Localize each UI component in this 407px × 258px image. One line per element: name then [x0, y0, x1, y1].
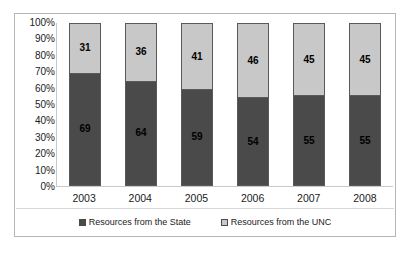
y-tick-label: 70%	[15, 67, 55, 77]
bar-value-label: 45	[303, 55, 314, 65]
bar-value-label: 45	[359, 55, 370, 65]
bar-segment-state[interactable]: 64	[126, 82, 156, 185]
y-tick-label: 50%	[15, 100, 55, 110]
x-tick-label: 2003	[56, 190, 112, 206]
bar-value-label: 55	[303, 136, 314, 146]
bar-value-label: 64	[135, 128, 146, 138]
y-tick-label: 30%	[15, 133, 55, 143]
bar-stack[interactable]: 4555	[293, 23, 325, 186]
bar-value-label: 41	[191, 52, 202, 62]
bar-segment-unc[interactable]: 36	[126, 24, 156, 82]
y-tick-label: 80%	[15, 51, 55, 61]
bar-segment-unc[interactable]: 31	[70, 24, 100, 74]
chart-legend: Resources from the StateResources from t…	[15, 212, 395, 232]
bar-stack[interactable]: 4159	[181, 23, 213, 186]
bar-group[interactable]: 4555	[337, 23, 393, 186]
bar-segment-unc[interactable]: 45	[294, 24, 324, 96]
bar-segment-unc[interactable]: 41	[182, 24, 212, 90]
y-tick-label: 40%	[15, 116, 55, 126]
bar-group[interactable]: 4555	[281, 23, 337, 186]
x-tick-label: 2004	[112, 190, 168, 206]
bar-segment-state[interactable]: 69	[70, 74, 100, 185]
unc-swatch-icon	[221, 219, 228, 226]
chart-frame: 100%90%80%70%60%50%40%30%20%10%0% 316936…	[14, 13, 396, 237]
legend-item[interactable]: Resources from the State	[79, 218, 191, 227]
y-tick-label: 60%	[15, 84, 55, 94]
bar-value-label: 69	[79, 124, 90, 134]
bar-segment-state[interactable]: 59	[182, 90, 212, 185]
x-tick-label: 2006	[225, 190, 281, 206]
bar-value-label: 46	[247, 56, 258, 66]
y-tick-label: 90%	[15, 34, 55, 44]
y-tick-label: 0%	[15, 182, 55, 192]
x-tick-label: 2005	[168, 190, 224, 206]
legend-item[interactable]: Resources from the UNC	[221, 218, 332, 227]
y-tick-label: 20%	[15, 149, 55, 159]
bar-segment-unc[interactable]: 46	[238, 24, 268, 98]
bar-group[interactable]: 4159	[169, 23, 225, 186]
bar-value-label: 59	[191, 132, 202, 142]
bar-stack[interactable]: 3169	[69, 23, 101, 186]
x-axis: 200320042005200620072008	[56, 190, 393, 206]
bar-segment-state[interactable]: 54	[238, 98, 268, 185]
bar-segment-unc[interactable]: 45	[350, 24, 380, 96]
y-tick-label: 100%	[15, 18, 55, 28]
y-tick-label: 10%	[15, 166, 55, 176]
bar-stack[interactable]: 4654	[237, 23, 269, 186]
state-swatch-icon	[79, 219, 86, 226]
bar-value-label: 36	[135, 47, 146, 57]
x-tick-label: 2007	[281, 190, 337, 206]
bars-layer: 316936644159465445554555	[57, 23, 393, 186]
bar-segment-state[interactable]: 55	[294, 96, 324, 185]
bar-stack[interactable]: 4555	[349, 23, 381, 186]
bar-value-label: 54	[247, 137, 258, 147]
bar-group[interactable]: 3664	[113, 23, 169, 186]
bar-segment-state[interactable]: 55	[350, 96, 380, 185]
bar-group[interactable]: 3169	[57, 23, 113, 186]
bar-stack[interactable]: 3664	[125, 23, 157, 186]
legend-label: Resources from the State	[89, 218, 191, 227]
bar-group[interactable]: 4654	[225, 23, 281, 186]
y-axis: 100%90%80%70%60%50%40%30%20%10%0%	[15, 23, 55, 187]
x-tick-label: 2008	[337, 190, 393, 206]
bar-value-label: 55	[359, 136, 370, 146]
plot-area: 316936644159465445554555	[56, 23, 393, 187]
x-axis-divider	[16, 208, 394, 209]
legend-label: Resources from the UNC	[231, 218, 332, 227]
bar-value-label: 31	[79, 43, 90, 53]
